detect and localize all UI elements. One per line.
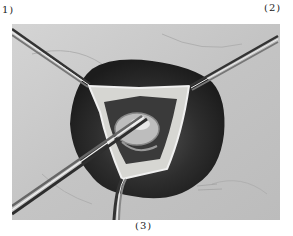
panel-label-2: (2) — [264, 2, 281, 13]
panel-label-1: 1) — [2, 4, 14, 15]
surgical-illustration — [12, 24, 280, 220]
panel-label-3: (3) — [135, 220, 152, 231]
